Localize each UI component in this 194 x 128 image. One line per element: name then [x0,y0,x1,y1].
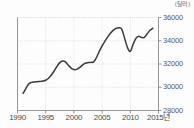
x-axis-tick-label: 2005 [94,113,111,122]
x-axis-tick-label: 1995 [37,113,54,122]
y-axis-tick-label: 36000 [163,14,183,22]
x-axis-tick-label: 2000 [66,113,83,122]
data-line-series [23,28,153,94]
tick-marks [18,18,162,114]
y-axis-tick-label: 30000 [163,83,183,91]
y-axis-tick-label: 32000 [163,60,183,68]
x-axis-tick-label: 2015년 [147,113,170,122]
chart-container: (달러) 3600034000320003000028000 199019952… [0,0,194,128]
y-axis-tick-label: 34000 [163,37,183,45]
x-axis-tick-label: 2010 [122,113,139,122]
gridlines [18,18,159,111]
x-axis-tick-label: 1990 [9,113,26,122]
